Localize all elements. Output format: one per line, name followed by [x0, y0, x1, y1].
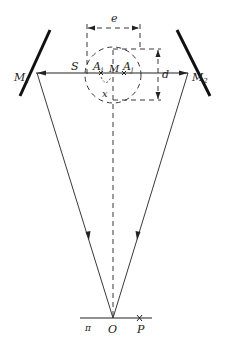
label-x: x: [102, 88, 108, 99]
arrow-left-icon: [37, 71, 46, 76]
arrow-ray2-icon: [136, 231, 141, 240]
label-s: S: [71, 60, 79, 73]
d-arrow-down-icon: [156, 92, 161, 99]
label-o: O: [108, 323, 117, 336]
x-offset-arc: [101, 77, 111, 83]
mirror-m2: [177, 30, 210, 96]
interferometer-diagram: M1 M2 S Ai Aj M e d x O P π: [0, 0, 225, 340]
label-e: e: [111, 12, 118, 25]
label-m2: M2: [191, 71, 208, 85]
label-aj: Aj: [122, 60, 134, 74]
mirror-m1: [20, 30, 50, 96]
d-arrow-up-icon: [156, 50, 161, 57]
label-m: M: [108, 63, 120, 74]
source-circle: [85, 47, 141, 103]
label-d: d: [162, 68, 169, 81]
ray-m2-to-o: [113, 73, 188, 318]
arrow-right-icon: [179, 71, 188, 76]
label-p: P: [136, 323, 145, 336]
label-m1: M1: [13, 71, 30, 85]
ray-m1-to-o: [37, 73, 113, 318]
e-arrow-right-icon: [132, 26, 139, 31]
label-pi: π: [84, 323, 92, 333]
label-ai: Ai: [92, 60, 103, 74]
e-arrow-left-icon: [88, 26, 95, 31]
